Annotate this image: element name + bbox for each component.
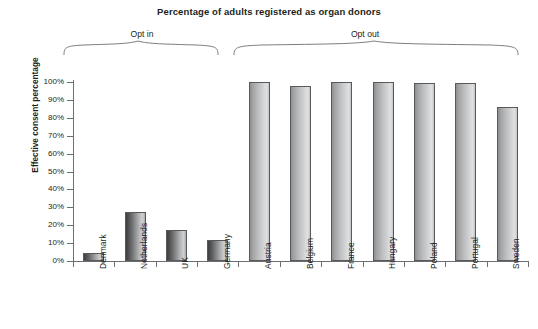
y-axis-tick-label: 70%	[20, 131, 64, 140]
x-axis-tick	[238, 262, 239, 267]
x-axis-tick	[363, 262, 364, 267]
chart-title: Percentage of adults registered as organ…	[0, 6, 538, 17]
x-axis-label-portugal: Portugal	[470, 237, 480, 269]
x-axis-label-austria: Austria	[263, 242, 273, 269]
x-axis-label-hungary: Hungary	[387, 237, 397, 269]
x-axis-tick	[280, 262, 281, 267]
x-axis-label-sweden: Sweden	[511, 238, 521, 269]
x-axis-tick	[528, 262, 529, 267]
x-axis-tick	[197, 262, 198, 267]
x-axis-label-poland: Poland	[429, 242, 439, 269]
y-axis-tick-label: 80%	[20, 113, 64, 122]
organ-donor-bar-chart: Percentage of adults registered as organ…	[0, 0, 538, 329]
y-axis-tick-label: 100%	[20, 77, 64, 86]
y-axis-tick-label: 30%	[20, 202, 64, 211]
y-axis-tick-label: 20%	[20, 220, 64, 229]
x-axis-label-denmark: Denmark	[98, 234, 108, 269]
y-axis-tick-label: 90%	[20, 95, 64, 104]
x-axis-tick	[404, 262, 405, 267]
x-axis-tick	[445, 262, 446, 267]
bar-belgium	[290, 86, 311, 261]
x-axis-label-belgium: Belgium	[305, 238, 315, 269]
x-axis-tick	[156, 262, 157, 267]
x-axis-tick	[321, 262, 322, 267]
brace-opt-out-icon	[232, 40, 520, 56]
x-axis-label-uk: UK	[180, 257, 190, 269]
x-axis-label-germany: Germany	[222, 234, 232, 269]
y-axis-tick-label: 50%	[20, 167, 64, 176]
x-axis-tick	[73, 262, 74, 267]
brace-opt-in-icon	[62, 40, 222, 56]
bar-hungary	[373, 82, 394, 261]
x-axis-label-netherlands: Netherlands	[139, 223, 149, 269]
x-axis-label-france: France	[346, 242, 356, 269]
y-axis-tick-label: 40%	[20, 184, 64, 193]
bar-portugal	[455, 83, 476, 261]
x-axis-tick	[114, 262, 115, 267]
group-label-opt-out: Opt out	[335, 29, 395, 39]
y-axis-tick-label: 10%	[20, 238, 64, 247]
group-label-opt-in: Opt in	[112, 29, 172, 39]
x-axis-tick	[487, 262, 488, 267]
y-axis-tick-label: 0%	[20, 256, 64, 265]
bar-austria	[249, 82, 270, 261]
bar-france	[331, 82, 352, 261]
bar-poland	[414, 83, 435, 261]
y-axis-tick-label: 60%	[20, 149, 64, 158]
